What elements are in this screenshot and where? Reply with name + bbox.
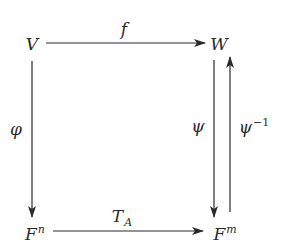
label-phi: φ [10,121,22,138]
node-F-m-sup: m [226,223,236,236]
node-V-base: V [26,34,38,54]
label-psi-inverse-sup: −1 [253,116,269,129]
label-phi-text: φ [10,119,22,139]
node-F-m: Fm [213,224,236,243]
label-psi-inverse-base: ψ [239,117,252,137]
node-V: V [26,36,38,53]
node-W: W [210,36,227,53]
label-psi-inverse: ψ−1 [239,117,270,136]
label-T-A-sub: A [124,216,132,229]
label-psi-text: ψ [191,116,204,136]
node-F-n: Fn [25,224,45,243]
label-T-A: TA [112,208,132,228]
label-f: f [121,21,127,38]
label-psi: ψ [191,118,204,135]
label-f-text: f [121,19,127,39]
node-F-n-sup: n [38,223,45,236]
node-F-m-base: F [213,224,225,244]
node-W-base: W [210,34,227,54]
node-F-n-base: F [25,224,37,244]
label-T-A-base: T [112,206,123,226]
